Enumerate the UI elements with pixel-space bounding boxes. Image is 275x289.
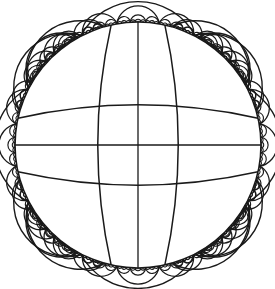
poincare-disk — [0, 0, 275, 289]
hyperbolic-tiling-figure — [0, 0, 275, 289]
